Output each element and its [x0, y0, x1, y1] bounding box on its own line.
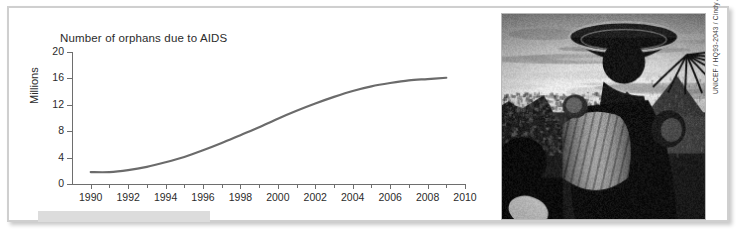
y-tick-label-20: 20: [38, 45, 64, 57]
caption-strip: [38, 211, 210, 222]
y-tick-label-8: 8: [38, 124, 64, 136]
x-tick-label-1992: 1992: [116, 191, 139, 203]
y-tick-label-0: 0: [38, 177, 64, 189]
x-tick-label-1994: 1994: [154, 191, 177, 203]
photo-panel: [501, 13, 706, 220]
chart-panel: Number of orphans due to AIDS Millions 0…: [14, 12, 484, 212]
x-minor-tick-2007: [409, 184, 410, 188]
x-tick-2004: [353, 184, 354, 189]
x-axis-line: [72, 184, 465, 185]
chart-title: Number of orphans due to AIDS: [60, 32, 227, 44]
x-tick-label-2004: 2004: [341, 191, 364, 203]
x-minor-tick-1991: [109, 184, 110, 188]
x-tick-2002: [315, 184, 316, 189]
y-tick-label-4: 4: [38, 151, 64, 163]
photo-credit: UNICEF / HQ93-2043 / Cindy Andrew: [712, 0, 719, 94]
figure-root: Number of orphans due to AIDS Millions 0…: [0, 0, 739, 233]
x-minor-tick-2001: [297, 184, 298, 188]
plot-area: 048121620 199019921994199619982000200220…: [72, 52, 465, 184]
x-tick-2008: [428, 184, 429, 189]
x-tick-2010: [465, 184, 466, 189]
x-tick-label-2006: 2006: [378, 191, 401, 203]
x-tick-1994: [166, 184, 167, 189]
x-tick-label-1990: 1990: [79, 191, 102, 203]
x-minor-tick-1993: [147, 184, 148, 188]
x-minor-tick-2003: [334, 184, 335, 188]
x-tick-label-2000: 2000: [266, 191, 289, 203]
x-tick-2006: [390, 184, 391, 189]
y-tick-label-12: 12: [38, 98, 64, 110]
orphans-line-series: [91, 78, 447, 173]
x-tick-label-1996: 1996: [191, 191, 214, 203]
x-tick-2000: [278, 184, 279, 189]
x-minor-tick-2009: [446, 184, 447, 188]
x-tick-1990: [91, 184, 92, 189]
x-tick-1998: [240, 184, 241, 189]
x-minor-tick-1995: [184, 184, 185, 188]
chart-line-svg: [72, 52, 465, 184]
x-minor-tick-2005: [371, 184, 372, 188]
x-tick-label-2010: 2010: [453, 191, 476, 203]
y-tick-0: [67, 184, 72, 185]
y-tick-label-16: 16: [38, 71, 64, 83]
x-minor-tick-1999: [259, 184, 260, 188]
x-tick-label-1998: 1998: [229, 191, 252, 203]
x-tick-1996: [203, 184, 204, 189]
x-tick-label-2008: 2008: [416, 191, 439, 203]
photo-image: [502, 14, 705, 219]
x-tick-1992: [128, 184, 129, 189]
x-tick-label-2002: 2002: [304, 191, 327, 203]
x-minor-tick-1997: [222, 184, 223, 188]
